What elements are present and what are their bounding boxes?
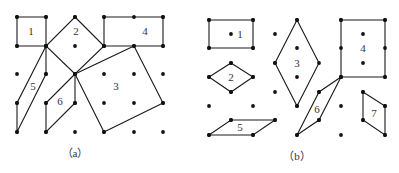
grid-dot xyxy=(44,44,48,48)
grid-dot xyxy=(15,15,19,19)
figure-b: 1234567 （b） xyxy=(207,18,387,162)
grid-dot xyxy=(132,15,136,19)
geoboard-diagram: 123456 （a） 1234567 （b） xyxy=(0,0,399,173)
vertex-dot xyxy=(317,61,321,65)
grid-dot xyxy=(339,46,343,50)
grid-dot xyxy=(295,133,299,137)
shape-label: 3 xyxy=(294,57,300,69)
shape-label: 4 xyxy=(360,42,366,54)
shape-label: 4 xyxy=(142,25,148,37)
grid-dot xyxy=(251,133,255,137)
grid-dot xyxy=(15,72,19,76)
grid-dot xyxy=(44,130,48,134)
grid-dot xyxy=(161,72,165,76)
grid-dot xyxy=(361,118,365,122)
grid-dot xyxy=(44,101,48,105)
grid-dot xyxy=(229,61,233,65)
figure-a-caption: （a） xyxy=(62,147,89,159)
shape-label: 2 xyxy=(228,71,234,83)
grid-dot xyxy=(132,130,136,134)
grid-dot xyxy=(15,44,19,48)
grid-dot xyxy=(273,61,277,65)
grid-dot xyxy=(295,75,299,79)
grid-dot xyxy=(161,44,165,48)
grid-dot xyxy=(273,90,277,94)
grid-dot xyxy=(339,18,343,22)
grid-dot xyxy=(251,104,255,108)
grid-dot xyxy=(73,15,77,19)
shape-label: 5 xyxy=(237,121,243,133)
grid-dot xyxy=(383,133,387,137)
grid-dot xyxy=(251,46,255,50)
grid-dot xyxy=(44,72,48,76)
grid-dot xyxy=(295,46,299,50)
grid-dot xyxy=(361,90,365,94)
grid-dot xyxy=(161,15,165,19)
shape-label: 1 xyxy=(237,28,243,40)
grid-dot xyxy=(161,101,165,105)
grid-dot xyxy=(132,44,136,48)
grid-dot xyxy=(207,104,211,108)
grid-dot xyxy=(132,101,136,105)
shape-label: 2 xyxy=(73,25,79,37)
grid-dot xyxy=(73,101,77,105)
grid-dot xyxy=(207,46,211,50)
grid-dot xyxy=(132,72,136,76)
grid-dot xyxy=(15,130,19,134)
shape-3 xyxy=(75,46,163,132)
grid-dot xyxy=(229,32,233,36)
grid-dot xyxy=(317,90,321,94)
grid-dot xyxy=(317,118,321,122)
grid-dot xyxy=(361,61,365,65)
shape-label: 6 xyxy=(314,103,320,115)
grid-dot xyxy=(102,15,106,19)
shape-label: 5 xyxy=(30,80,36,92)
grid-dot xyxy=(295,104,299,108)
grid-dot xyxy=(383,18,387,22)
grid-dot xyxy=(102,130,106,134)
shape-label: 3 xyxy=(113,80,119,92)
grid-dot xyxy=(207,18,211,22)
grid-dot xyxy=(295,18,299,22)
grid-dot xyxy=(73,130,77,134)
grid-dot xyxy=(229,118,233,122)
grid-dot xyxy=(15,101,19,105)
grid-dot xyxy=(339,104,343,108)
shape-label: 1 xyxy=(28,25,34,37)
shape-label: 6 xyxy=(57,95,63,107)
grid-dot xyxy=(383,104,387,108)
shape-4 xyxy=(104,17,163,46)
grid-dot xyxy=(273,32,277,36)
grid-dot xyxy=(251,75,255,79)
figure-a: 123456 （a） xyxy=(15,15,165,159)
grid-dot xyxy=(251,18,255,22)
grid-dot xyxy=(161,130,165,134)
grid-dot xyxy=(44,15,48,19)
grid-dot xyxy=(361,32,365,36)
grid-dot xyxy=(207,133,211,137)
grid-dot xyxy=(102,72,106,76)
shape-label: 7 xyxy=(371,107,377,119)
figure-a-shapes xyxy=(17,17,163,132)
grid-dot xyxy=(339,75,343,79)
grid-dot xyxy=(102,101,106,105)
figure-b-labels: 1234567 xyxy=(228,28,377,133)
grid-dot xyxy=(102,44,106,48)
grid-dot xyxy=(339,133,343,137)
grid-dot xyxy=(229,90,233,94)
grid-dot xyxy=(383,75,387,79)
grid-dot xyxy=(73,72,77,76)
grid-dot xyxy=(273,118,277,122)
figure-b-caption: （b） xyxy=(283,150,311,162)
grid-dot xyxy=(207,75,211,79)
grid-dot xyxy=(383,46,387,50)
grid-dot xyxy=(73,44,77,48)
